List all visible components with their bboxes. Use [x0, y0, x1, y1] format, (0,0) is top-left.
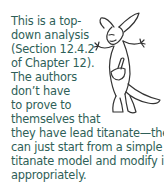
kangaroo-illustration-icon: [92, 8, 162, 116]
text-line: can just start from a simple lead: [11, 140, 161, 154]
text-line: titanate model and modify it: [11, 154, 161, 168]
text-line: they have lead titanate—they: [11, 126, 161, 140]
text-line: appropriately.: [11, 168, 161, 182]
